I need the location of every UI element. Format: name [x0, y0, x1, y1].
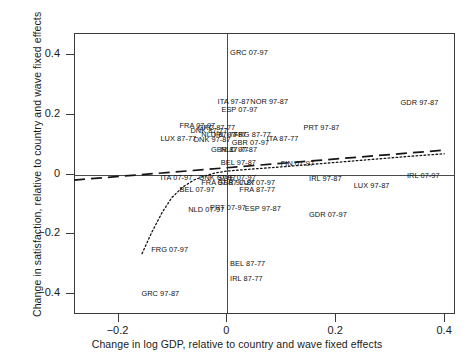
y-tick-0 [66, 54, 74, 55]
point-label: IRL 87-77 [230, 275, 263, 282]
x-tick-2 [335, 314, 336, 322]
point-label: BEL 97-87 [221, 159, 256, 166]
point-label: ESP 97-87 [245, 205, 281, 212]
point-label: PRT 97-87 [304, 124, 340, 131]
point-label: GDR 97-87 [400, 99, 438, 106]
y-tick-label-0: 0.4 [0, 47, 60, 59]
point-label: GDR 07-97 [309, 211, 347, 218]
y-tick-label-4: −0.4 [0, 286, 60, 298]
scatter-plot-figure: Change in satisfaction, relative to coun… [0, 0, 474, 364]
x-axis-label: Change in log GDP, relative to country a… [0, 338, 474, 350]
plot-area: GRC 07-97ITA 97-87NOR 97-87GDR 97-87ESP … [74, 33, 455, 314]
x-tick-3 [444, 314, 445, 322]
y-tick-label-1: 0.2 [0, 107, 60, 119]
x-tick-label-2: 0.2 [305, 324, 365, 336]
point-label: LUX 87-77 [160, 135, 196, 142]
x-tick-0 [118, 314, 119, 322]
point-label: ITA 07-97 [160, 174, 192, 181]
y-tick-4 [66, 293, 74, 294]
point-label: FRA 87-77 [239, 186, 275, 193]
point-label: GRC 97-87 [141, 290, 179, 297]
x-tick-1 [226, 314, 227, 322]
point-label: ITA 87-77 [267, 135, 299, 142]
zero-line-horizontal [75, 175, 454, 176]
point-label: IRL 07-97 [407, 172, 440, 179]
point-label: FIN 07-97 [281, 160, 314, 167]
x-tick-label-3: 0.4 [414, 324, 474, 336]
point-label: GRC 07-97 [230, 49, 268, 56]
y-tick-label-2: 0 [0, 167, 60, 179]
point-label: PRT 07-97 [210, 204, 246, 211]
y-tick-1 [66, 114, 74, 115]
y-tick-3 [66, 233, 74, 234]
point-label: ESP 07-97 [221, 106, 257, 113]
point-label: DNK 97-87 [194, 136, 231, 143]
x-tick-label-1: 0 [196, 324, 256, 336]
y-tick-label-3: −0.2 [0, 226, 60, 238]
point-label: LUX 97-87 [354, 182, 390, 189]
point-label: NLD 97-87 [221, 146, 257, 153]
y-tick-2 [66, 174, 74, 175]
point-label: FRG 07-97 [151, 246, 188, 253]
point-label: BEL 87-77 [230, 260, 265, 267]
point-label: BEL 07-97 [180, 186, 215, 193]
x-tick-label-0: −0.2 [88, 324, 148, 336]
point-label: IRL 97-87 [309, 175, 342, 182]
